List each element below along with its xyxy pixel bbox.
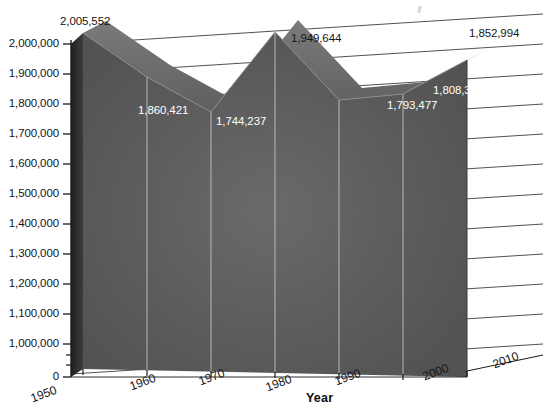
- data-label-1970: 1,744,237: [216, 116, 266, 128]
- y-tick-label: 1,200,000: [0, 278, 59, 290]
- y-tick-label: 1,600,000: [0, 158, 59, 170]
- data-label-1960: 1,860,421: [138, 105, 188, 117]
- y-axis-ticks: [63, 44, 71, 377]
- y-tick-label: 1,900,000: [0, 68, 59, 80]
- y-tick-label: 0: [0, 371, 59, 383]
- y-tick-label: 1,000,000: [0, 338, 59, 350]
- data-label-2000: 1,808,344: [433, 85, 483, 97]
- data-label-1950: 2,005,552: [60, 16, 110, 28]
- data-label-1990: 1,793,477: [387, 100, 437, 112]
- data-label-1980: 1,949,644: [291, 33, 341, 45]
- data-label-2010: 1,852,994: [469, 28, 519, 40]
- y-tick-label: 1,300,000: [0, 248, 59, 260]
- y-tick-label: 1,100,000: [0, 308, 59, 320]
- y-tick-label: 2,000,000: [0, 38, 59, 50]
- y-tick-label: 1,700,000: [0, 128, 59, 140]
- y-tick-label: 1,500,000: [0, 188, 59, 200]
- area-3d-left-face: [71, 33, 83, 377]
- x-axis-title: Year: [306, 391, 333, 405]
- chart-plot-area: [0, 0, 543, 416]
- chart-root: 2,000,000 1,900,000 1,800,000 1,700,000 …: [0, 0, 543, 416]
- y-tick-label: 1,400,000: [0, 218, 59, 230]
- y-tick-label: 1,800,000: [0, 98, 59, 110]
